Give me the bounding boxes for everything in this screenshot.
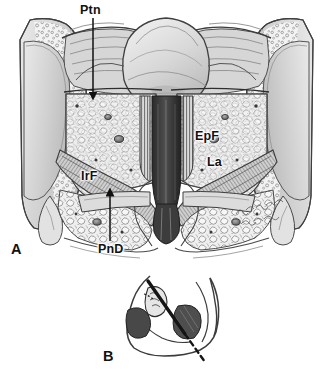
label-la: La [207,156,222,169]
panel-label-a: A [11,242,22,257]
label-pnd: PnD [98,243,124,256]
panel-a-artwork [20,18,313,258]
panel-label-b: B [103,349,114,364]
label-irf: IrF [81,170,98,183]
figure-artwork [0,0,333,369]
label-ptn: Ptn [80,4,101,17]
label-epf: EpF [195,130,219,143]
anatomical-figure [0,0,333,369]
